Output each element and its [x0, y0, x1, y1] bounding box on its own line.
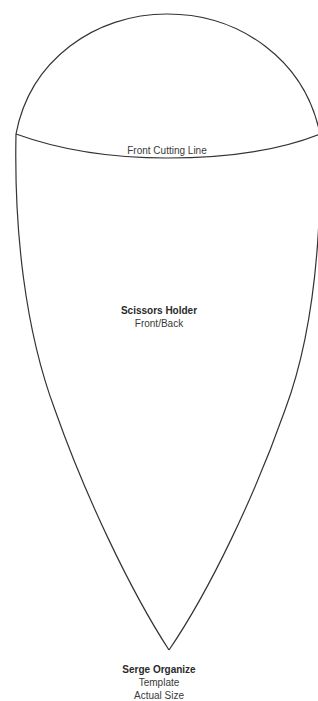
left-side-edge — [16, 134, 169, 650]
template-outline — [0, 0, 318, 701]
piece-subtitle: Front/Back — [0, 318, 318, 330]
footer-brand: Serge Organize — [0, 664, 318, 676]
footer-actual-size: Actual Size — [0, 690, 318, 701]
cutting-line-label: Front Cutting Line — [109, 145, 225, 157]
footer-template: Template — [0, 677, 318, 689]
right-side-edge — [169, 134, 318, 650]
dome-arc — [16, 14, 318, 134]
piece-name: Scissors Holder — [0, 305, 318, 317]
